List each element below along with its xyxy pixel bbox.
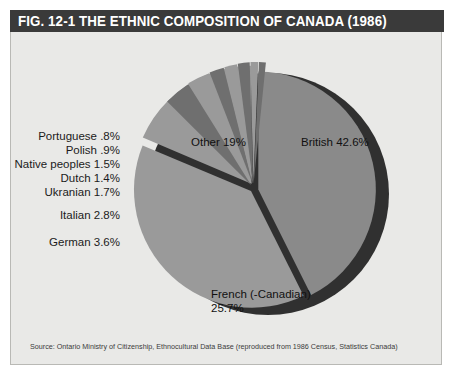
slice-label-ukranian: Ukranian 1.7% — [45, 186, 120, 198]
figure-container: FIG. 12-1 THE ETHNIC COMPOSITION OF CANA… — [0, 0, 454, 376]
slice-label-polish: Polish .9% — [66, 144, 120, 156]
slice-label-french-line2: 25.7% — [211, 301, 311, 315]
page-title: FIG. 12-1 THE ETHNIC COMPOSITION OF CANA… — [18, 13, 387, 29]
source-note: Source: Ontario Ministry of Citizenship,… — [30, 342, 398, 351]
pie-chart: Portuguese .8% Polish .9% Native peoples… — [11, 32, 442, 332]
slice-label-french-line1: French (-Canadian) — [211, 287, 311, 301]
slice-label-german: German 3.6% — [49, 236, 120, 248]
slice-label-french: French (-Canadian) 25.7% — [211, 287, 311, 316]
slice-label-italian: Italian 2.8% — [60, 209, 120, 221]
slice-label-native-peoples: Native peoples 1.5% — [15, 158, 120, 170]
slice-label-british: British 42.6% — [301, 136, 369, 148]
figure-title-bar: FIG. 12-1 THE ETHNIC COMPOSITION OF CANA… — [10, 10, 444, 32]
figure-panel: Portuguese .8% Polish .9% Native peoples… — [10, 32, 442, 365]
slice-label-dutch: Dutch 1.4% — [61, 172, 120, 184]
slice-label-portuguese: Portuguese .8% — [38, 130, 120, 142]
slice-label-other: Other 19% — [191, 136, 246, 148]
